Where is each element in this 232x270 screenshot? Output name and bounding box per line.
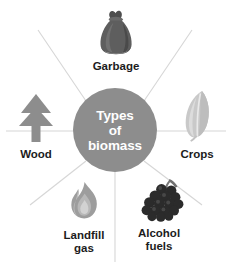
hub-label-line-1: Types [96, 108, 134, 123]
grapes-icon [131, 176, 187, 224]
garbage-bag-icon [90, 6, 142, 58]
node-landfill-gas: Landfill gas [52, 180, 116, 255]
spoke-line-upper-left [38, 30, 86, 101]
node-label-wood: Wood [20, 148, 52, 161]
hub-circle: Types of biomass [73, 88, 157, 172]
node-wood: Wood [5, 92, 67, 161]
hub-label-line-3: biomass [88, 138, 142, 153]
flame-icon [65, 180, 103, 226]
node-label-crops: Crops [180, 148, 213, 161]
node-label-landfill-gas: Landfill gas [64, 229, 105, 255]
biomass-types-diagram: Types of biomass Garbage [0, 0, 232, 270]
node-label-alcohol-fuels: Alcohol fuels [138, 227, 180, 253]
node-crops: Crops [166, 88, 228, 161]
hub-label-line-2: of [109, 123, 122, 138]
node-garbage: Garbage [82, 6, 150, 73]
node-label-garbage: Garbage [93, 60, 140, 73]
node-alcohol-fuels: Alcohol fuels [126, 176, 192, 253]
leaf-icon [175, 88, 219, 144]
pine-tree-icon [13, 92, 59, 144]
